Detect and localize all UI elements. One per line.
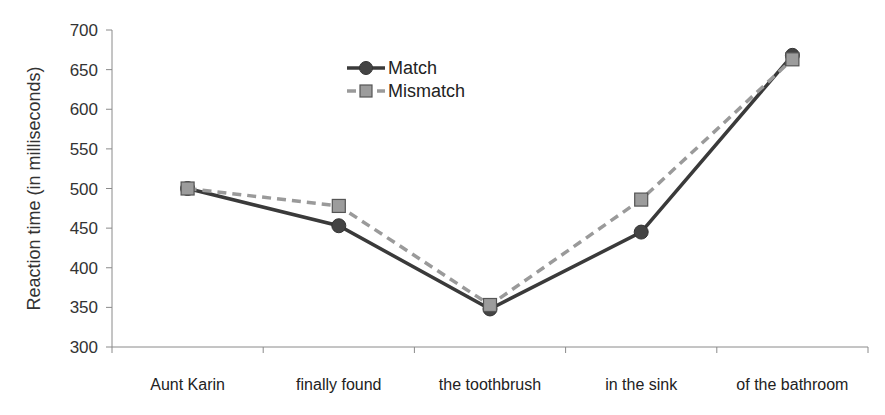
line-chart: 300350400450500550600650700Aunt Karinfin…	[0, 0, 885, 415]
y-tick-label: 650	[70, 61, 98, 80]
legend: MatchMismatch	[347, 58, 465, 101]
data-point-square	[484, 298, 497, 311]
legend-label-mismatch: Mismatch	[388, 81, 465, 101]
legend-label-match: Match	[388, 58, 437, 78]
y-tick-label: 300	[70, 338, 98, 357]
x-tick-label: of the bathroom	[736, 376, 848, 393]
data-point-circle	[634, 225, 648, 239]
series-line	[188, 59, 793, 305]
series-mismatch	[181, 53, 799, 312]
data-point-circle	[332, 219, 346, 233]
y-tick-label: 350	[70, 298, 98, 317]
legend-mismatch-marker	[360, 85, 372, 97]
y-tick-label: 600	[70, 100, 98, 119]
x-tick-label: in the sink	[605, 376, 678, 393]
legend-match-marker	[360, 62, 373, 75]
y-tick-label: 400	[70, 259, 98, 278]
series-match	[181, 48, 800, 316]
x-tick-label: Aunt Karin	[150, 376, 225, 393]
data-point-square	[786, 53, 799, 66]
y-tick-label: 500	[70, 180, 98, 199]
data-point-square	[332, 199, 345, 212]
chart-canvas: 300350400450500550600650700Aunt Karinfin…	[0, 0, 885, 415]
x-tick-label: finally found	[296, 376, 381, 393]
y-axis-label: Reaction time (in milliseconds)	[24, 66, 44, 310]
data-point-square	[635, 193, 648, 206]
data-point-square	[181, 182, 194, 195]
y-tick-label: 550	[70, 140, 98, 159]
y-tick-label: 700	[70, 21, 98, 40]
x-tick-label: the toothbrush	[439, 376, 541, 393]
y-tick-label: 450	[70, 219, 98, 238]
series-line	[188, 55, 793, 309]
